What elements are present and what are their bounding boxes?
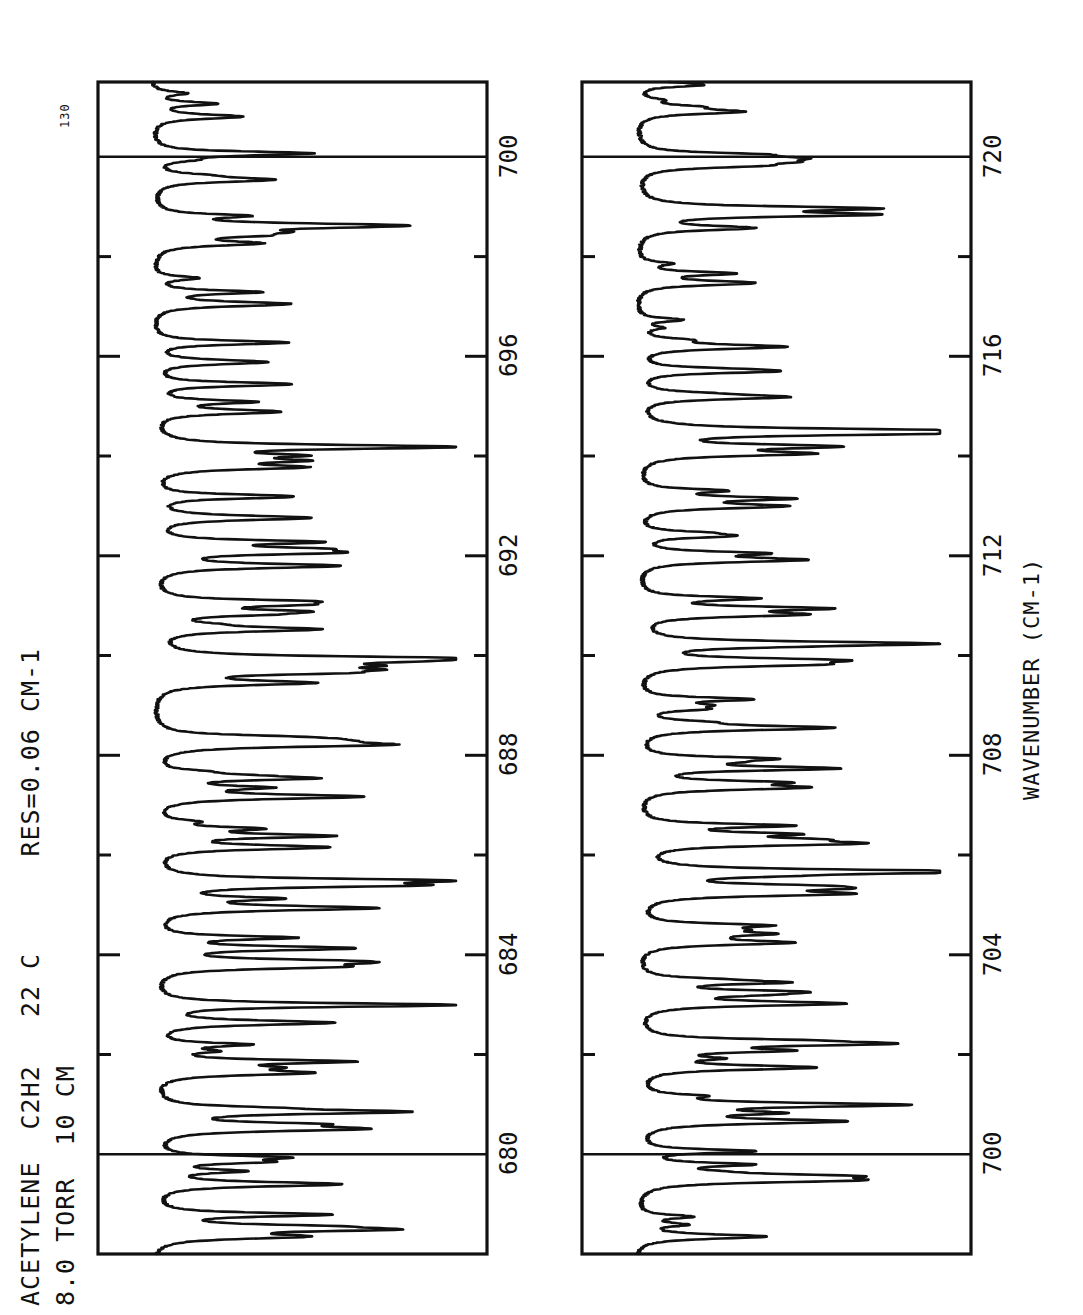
spectrum-panel-upper <box>95 78 490 1258</box>
tick-label: 684 <box>495 932 523 975</box>
tick-label: 696 <box>495 334 523 377</box>
tick-label: 692 <box>495 533 523 576</box>
axis-title-wavenumber: WAVENUMBER (CM-1) <box>1019 558 1044 800</box>
spectrum-trace <box>152 82 456 1254</box>
tick-label: 720 <box>979 134 1007 177</box>
tick-label: 700 <box>979 1132 1007 1175</box>
header-line-2: 8.0 TORR 10 CM <box>51 1065 80 1306</box>
plot-frame <box>98 82 487 1254</box>
tick-label: 716 <box>979 334 1007 377</box>
header-line-1: ACETYLENE C2H2 22 C RES=0.06 CM-1 <box>16 648 45 1306</box>
tick-label: 712 <box>979 533 1007 576</box>
tick-label: 704 <box>979 932 1007 975</box>
scale-marker-label: 130 <box>58 103 72 128</box>
tick-label: 688 <box>495 733 523 776</box>
spectrum-trace <box>637 82 940 1254</box>
spectrum-panel-lower <box>579 78 974 1258</box>
tick-label: 708 <box>979 733 1007 776</box>
tick-label: 700 <box>495 134 523 177</box>
tick-label: 680 <box>495 1132 523 1175</box>
